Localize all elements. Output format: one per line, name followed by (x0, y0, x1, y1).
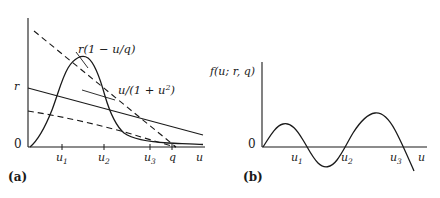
panel-b-tick-label-u1: u1 (291, 152, 303, 163)
panel-a-caption: (a) (8, 170, 27, 184)
panel-a-tick-label-u2: u2 (98, 152, 110, 163)
panel-a-solid-hump-curve (30, 56, 203, 147)
panel-b-plot (215, 0, 440, 198)
panel-b-tick-label-u2: u2 (341, 152, 353, 163)
panel-b-caption: (b) (243, 170, 263, 184)
panel-a-origin-label: 0 (14, 138, 22, 150)
panel-a-curve-label-linear: r(1 − u/q) (78, 44, 135, 56)
panel-a-tick-label-u1: u1 (56, 152, 68, 163)
panel-b-x-axis-label: u (418, 152, 425, 163)
panel-b: 0 f(u; r, q) u u1 u2 u3 (b) (215, 0, 440, 198)
panel-a: 0 r u u1 u2 u3 q r(1 − u/q) u/(1 + u2) (… (0, 0, 215, 198)
panel-a-tick-label-u3: u3 (144, 152, 156, 163)
panel-a-leader-line-2 (82, 90, 115, 100)
panel-a-plot (0, 0, 215, 198)
panel-a-y-axis-label: r (14, 81, 19, 92)
panel-b-y-axis-label: f(u; r, q) (210, 66, 255, 77)
panel-a-solid-line-from-r (28, 88, 203, 135)
figure-container: 0 r u u1 u2 u3 q r(1 − u/q) u/(1 + u2) (… (0, 0, 440, 198)
panel-a-x-axis-label: u (196, 152, 203, 163)
panel-a-curve-label-hump: u/(1 + u2) (118, 85, 175, 97)
panel-a-tick-label-q: q (169, 152, 176, 163)
panel-b-tick-label-u3: u3 (390, 152, 402, 163)
panel-b-origin-label: 0 (248, 138, 256, 150)
